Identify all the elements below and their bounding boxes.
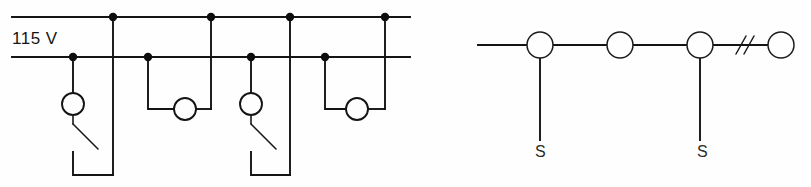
junction-dot-hot-2 <box>207 13 215 21</box>
branch-1-return-loop <box>73 152 113 175</box>
branch-4-lamp <box>346 98 368 120</box>
junction-dot-hot-4 <box>381 13 389 21</box>
left-circuit-group: 115 V <box>12 13 410 175</box>
voltage-label: 115 V <box>12 29 58 48</box>
junction-dot-neutral-3 <box>247 53 255 61</box>
junction-dot-hot-1 <box>109 13 117 21</box>
junction-dot-neutral-1 <box>69 53 77 61</box>
branch-1-lamp <box>62 93 84 115</box>
node-2 <box>607 32 633 58</box>
branch-3-lamp-switch <box>240 17 290 175</box>
stub-label-s-1: S <box>535 143 546 160</box>
right-circuit-group: S S <box>478 32 794 160</box>
branch-1-switch-blade <box>73 124 98 149</box>
circuit-diagram-canvas: 115 V <box>0 0 811 187</box>
branch-1-lamp-switch <box>62 17 113 175</box>
stub-label-s-2: S <box>697 143 708 160</box>
junction-dot-neutral-2 <box>144 53 152 61</box>
branch-2-lamp-loop <box>148 17 211 120</box>
circuit-diagram-figure: 115 V <box>0 0 811 187</box>
node-4 <box>768 32 794 58</box>
branch-2-lamp <box>174 98 196 120</box>
node-1 <box>527 32 553 58</box>
branch-3-lamp <box>240 93 262 115</box>
branch-2-neutral-leg <box>148 57 174 109</box>
node-3 <box>687 32 713 58</box>
branch-3-return-loop <box>251 152 290 175</box>
junction-dot-hot-3 <box>286 13 294 21</box>
junction-dot-neutral-4 <box>321 53 329 61</box>
branch-4-neutral-leg <box>325 57 346 109</box>
branch-3-switch-blade <box>251 124 276 149</box>
branch-4-lamp-loop <box>325 17 385 120</box>
